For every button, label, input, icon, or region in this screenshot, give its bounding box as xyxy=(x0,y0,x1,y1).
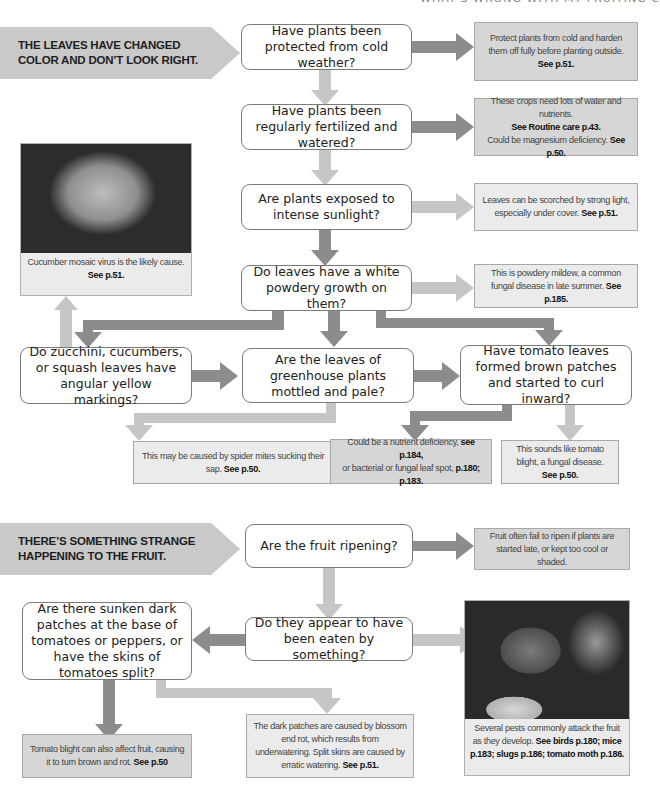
arrow-right-icon xyxy=(456,33,474,61)
answer-intense-sunlight: Leaves can be scorched by strong light, … xyxy=(474,183,638,231)
arrow-shaft xyxy=(412,41,458,53)
answer-nutrient-deficiency: Could be a nutrient deficiency, see p.18… xyxy=(330,439,492,484)
arrow-shaft xyxy=(413,541,459,551)
arrow-shaft xyxy=(323,568,335,606)
arrow-shaft xyxy=(208,634,245,646)
banner-line: THERE’S SOMETHING STRANGE xyxy=(0,534,240,549)
arrow-shaft xyxy=(156,688,332,698)
question-angular-yellow-markings[interactable]: Do zucchini, cucumbers, or squash leaves… xyxy=(20,347,192,404)
arrow-shaft xyxy=(319,70,331,92)
arrow-shaft xyxy=(410,411,512,421)
question-intense-sunlight[interactable]: Are plants exposed to intense sunlight? xyxy=(241,184,412,230)
question-sunken-dark-patches[interactable]: Are there sunken dark patches at the bas… xyxy=(22,602,192,680)
arrow-down-icon xyxy=(125,425,153,441)
answer-cold-weather: Protect plants from cold and harden them… xyxy=(474,22,638,81)
question-powdery-growth[interactable]: Do leaves have a white powdery growth on… xyxy=(241,265,412,311)
arrow-right-icon xyxy=(456,532,474,560)
answer-fruit-blight: Tomato blight can also affect fruit, cau… xyxy=(22,734,192,778)
banner-line: HAPPENING TO THE FRUIT. xyxy=(0,549,240,564)
arrow-down-icon xyxy=(320,331,348,347)
arrow-shaft xyxy=(414,370,444,382)
arrow-shaft xyxy=(413,634,463,646)
question-greenhouse-mottled[interactable]: Are the leaves of greenhouse plants mott… xyxy=(242,348,414,403)
arrow-shaft xyxy=(412,282,458,294)
answer-fertilized-watered: These crops need lots of water and nutri… xyxy=(474,98,638,156)
arrow-shaft xyxy=(83,320,284,330)
arrow-shaft xyxy=(319,230,331,252)
pests-card: Several pests commonly attack the fruit … xyxy=(464,600,630,776)
answer-powdery-mildew: This is powdery mildew, a common fungal … xyxy=(474,264,638,308)
answer-spider-mites: This may be caused by spider mites sucki… xyxy=(133,441,333,484)
arrow-shaft xyxy=(319,150,331,172)
arrow-shaft xyxy=(412,121,458,133)
arrow-left-icon xyxy=(192,626,210,654)
arrow-up-icon xyxy=(54,296,78,310)
banner-line: THE LEAVES HAVE CHANGED xyxy=(0,38,240,53)
arrow-shaft xyxy=(134,413,336,423)
question-fertilized-watered[interactable]: Have plants been regularly fertilized an… xyxy=(241,104,412,150)
answer-blossom-end-rot: The dark patches are caused by blossom e… xyxy=(246,714,414,778)
cucumber-mosaic-card: Cucumber mosaic virus is the likely caus… xyxy=(20,143,192,296)
leaf-photo xyxy=(21,144,191,253)
answer-tomato-blight: This sounds like tomato blight, a fungal… xyxy=(501,440,619,484)
arrow-right-icon xyxy=(456,193,474,221)
arrow-shaft xyxy=(328,311,340,333)
question-cold-weather[interactable]: Have plants been protected from cold wea… xyxy=(241,24,412,70)
section-banner-fruit: THERE’S SOMETHING STRANGE HAPPENING TO T… xyxy=(0,523,240,575)
page-header: WHAT'S WRONG WITH MY FRUITING CROPS? xyxy=(420,0,660,6)
question-eaten-by-something[interactable]: Do they appear to have been eaten by som… xyxy=(245,617,413,661)
arrow-right-icon xyxy=(220,362,238,390)
arrow-right-icon xyxy=(442,362,460,390)
question-fruit-ripening[interactable]: Are the fruit ripening? xyxy=(245,524,413,568)
arrow-down-icon xyxy=(313,698,341,714)
answer-fruit-ripening: Fruit often fail to ripen if plants are … xyxy=(474,528,630,570)
arrow-shaft xyxy=(412,201,458,213)
arrow-right-icon xyxy=(456,274,474,302)
arrow-shaft xyxy=(192,370,222,382)
question-tomato-brown-patches[interactable]: Have tomato leaves formed brown patches … xyxy=(460,345,632,405)
arrow-shaft xyxy=(376,318,554,328)
arrow-shaft xyxy=(103,680,115,726)
arrow-right-icon xyxy=(456,113,474,141)
section-banner-leaves: THE LEAVES HAVE CHANGED COLOR AND DON’T … xyxy=(0,27,240,79)
slug-photo xyxy=(465,601,629,719)
arrow-down-icon xyxy=(556,425,584,441)
banner-line: COLOR AND DON’T LOOK RIGHT. xyxy=(0,53,240,68)
arrow-shaft xyxy=(565,405,575,427)
